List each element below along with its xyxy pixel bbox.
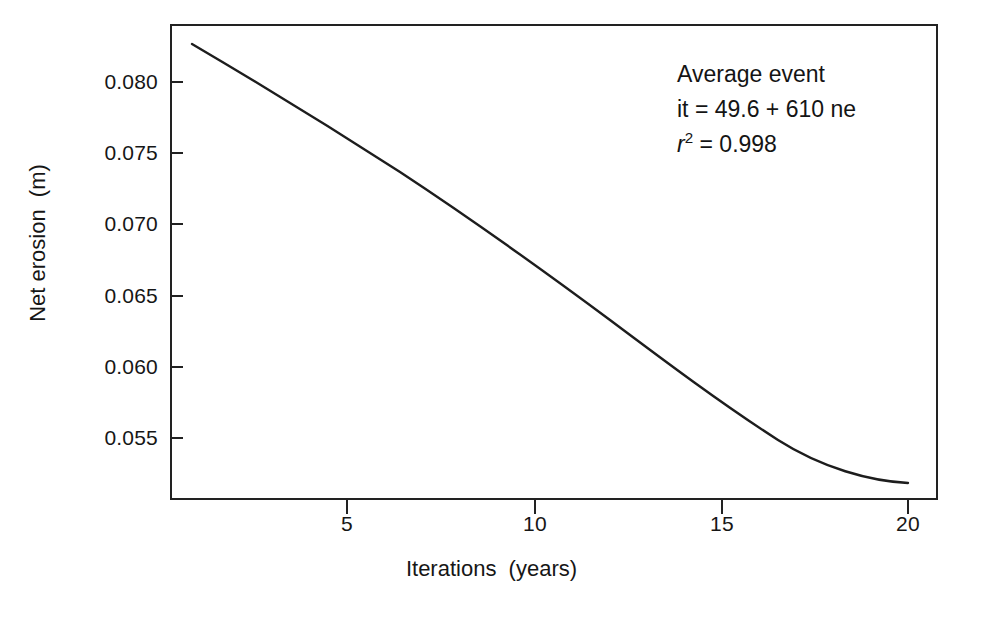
x-tick-label-15: 15 [710,512,734,536]
annotation-line-title: Average event [677,57,856,92]
chart-annotation: Average event it = 49.6 + 610 ne r2 = 0.… [677,57,856,162]
y-tick-label-0.070: 0.070 [104,212,158,236]
y-tick-label-0.080: 0.080 [104,70,158,94]
y-axis-title: Net erosion (m) [25,164,50,322]
r-exponent: 2 [685,129,693,146]
r-symbol: r [677,131,685,157]
x-axis-title: Iterations (years) [0,556,983,582]
y-axis-title-container: Net erosion (m) [25,93,51,393]
y-tick-label-0.075: 0.075 [104,141,158,165]
annotation-line-rsquared: r2 = 0.998 [677,127,856,162]
x-tick-label-20: 20 [896,512,920,536]
r-value: = 0.998 [700,131,777,157]
y-tick-label-0.060: 0.060 [104,355,158,379]
y-tick-label-0.055: 0.055 [104,426,158,450]
y-tick-label-0.065: 0.065 [104,284,158,308]
x-axis-tick-labels: 5 10 15 20 [0,512,983,546]
x-tick-label-5: 5 [341,512,353,536]
chart-figure: 0.080 0.075 0.070 0.065 0.060 0.055 5 10… [0,0,983,621]
annotation-line-equation: it = 49.6 + 610 ne [677,92,856,127]
x-tick-label-10: 10 [523,512,547,536]
